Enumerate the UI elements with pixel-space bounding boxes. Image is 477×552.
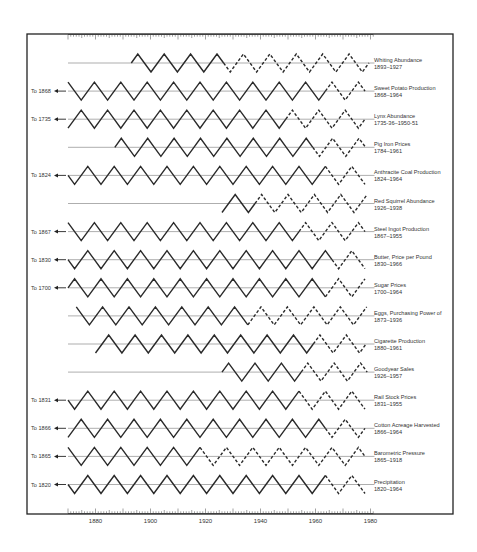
cycles-chart: 188019001920194019601980 Whiting Abundan…	[0, 0, 477, 552]
series-origin-note: To 1831	[31, 397, 51, 403]
series-range: 1868–1964	[374, 92, 402, 98]
series-name: Eggs, Purchasing Power of	[374, 310, 442, 316]
series-row: To 1830Butter, Price per Pound1830–1966	[31, 251, 432, 269]
series-row: To 1820Precipitation1820–1964	[31, 476, 405, 494]
series-range: 1867–1955	[374, 233, 402, 239]
series-name: Steel Ingot Production	[374, 226, 429, 232]
arrow-head-icon	[54, 426, 58, 430]
series-row: Red Squirrel Abundance1926–1938	[68, 195, 435, 213]
series-origin-note: To 1735	[31, 116, 51, 122]
x-tick-label: 1940	[254, 518, 268, 524]
series-name: Butter, Price per Pound	[374, 254, 432, 260]
arrow-head-icon	[54, 258, 58, 262]
series-name: Precipitation	[374, 479, 405, 485]
series-row: To 1824Anthracite Coal Production1824–19…	[31, 166, 441, 184]
series-name: Pig Iron Prices	[374, 141, 411, 147]
series-origin-note: To 1865	[31, 453, 51, 459]
series-row: Whiting Abundance1893–1927	[68, 54, 422, 72]
x-tick-label: 1920	[199, 518, 213, 524]
series-row: Pig Iron Prices1784–1961	[68, 138, 411, 156]
series-name: Sweet Potato Production	[374, 85, 436, 91]
series-range: 1700–1964	[374, 289, 402, 295]
series-range: 1824–1964	[374, 176, 402, 182]
series-origin-note: To 1868	[31, 88, 51, 94]
series-row: Goodyear Sales1926–1957	[68, 363, 414, 381]
series-range: 1831–1955	[374, 401, 402, 407]
series-origin-note: To 1824	[31, 172, 51, 178]
series-origin-note: To 1820	[31, 482, 51, 488]
series-range: 1926–1957	[374, 373, 402, 379]
arrow-head-icon	[54, 286, 58, 290]
series-range: 1735-36–1950-51	[374, 120, 418, 126]
series-name: Rail Stock Prices	[374, 394, 416, 400]
series-name: Cotton Acreage Harvested	[374, 422, 440, 428]
x-tick-label: 1880	[89, 518, 103, 524]
series-range: 1865–1918	[374, 457, 402, 463]
series-range: 1893–1927	[374, 64, 402, 70]
series-name: Goodyear Sales	[374, 366, 414, 372]
arrow-head-icon	[54, 173, 58, 177]
series-range: 1880–1961	[374, 345, 402, 351]
series-name: Cigarette Production	[374, 338, 425, 344]
series-row: To 1866Cotton Acreage Harvested1866–1964	[31, 419, 440, 437]
series-row: Cigarette Production1880–1961	[68, 335, 425, 353]
series-origin-note: To 1866	[31, 425, 51, 431]
series-row: Eggs, Purchasing Power of1873–1936	[68, 307, 442, 325]
bottom-axis: 188019001920194019601980	[68, 509, 378, 524]
series-row: To 1831Rail Stock Prices1831–1955	[31, 391, 416, 409]
series-range: 1873–1936	[374, 317, 402, 323]
series-origin-note: To 1867	[31, 229, 51, 235]
series-name: Anthracite Coal Production	[374, 169, 441, 175]
x-tick-label: 1900	[144, 518, 158, 524]
series-row: To 1735Lynx Abundance1735-36–1950-51	[31, 110, 418, 128]
series-row: To 1867Steel Ingot Production1867–1955	[31, 223, 429, 241]
series-row: To 1868Sweet Potato Production1868–1964	[31, 82, 436, 100]
series-range: 1784–1961	[374, 148, 402, 154]
chart-frame	[27, 34, 453, 514]
series-name: Red Squirrel Abundance	[374, 198, 435, 204]
series-origin-note: To 1700	[31, 285, 51, 291]
series-name: Whiting Abundance	[374, 57, 422, 63]
arrow-head-icon	[54, 230, 58, 234]
arrow-head-icon	[54, 398, 58, 402]
series-row: To 1865Barometric Pressure1865–1918	[31, 447, 425, 465]
series-name: Lynx Abundance	[374, 113, 415, 119]
arrow-head-icon	[54, 483, 58, 487]
arrow-head-icon	[54, 117, 58, 121]
cycle-wave-actual	[68, 251, 332, 269]
series-row: To 1700Sugar Prices1700–1964	[31, 279, 406, 297]
series-range: 1830–1966	[374, 261, 402, 267]
series-range: 1820–1964	[374, 486, 402, 492]
series-rows: Whiting Abundance1893–1927To 1868Sweet P…	[31, 54, 442, 494]
series-range: 1926–1938	[374, 205, 402, 211]
arrow-head-icon	[54, 454, 58, 458]
series-range: 1866–1964	[374, 429, 402, 435]
series-name: Barometric Pressure	[374, 450, 425, 456]
top-axis	[68, 35, 373, 40]
x-tick-label: 1980	[364, 518, 378, 524]
x-tick-label: 1960	[309, 518, 323, 524]
series-name: Sugar Prices	[374, 282, 406, 288]
series-origin-note: To 1830	[31, 257, 51, 263]
arrow-head-icon	[54, 89, 58, 93]
